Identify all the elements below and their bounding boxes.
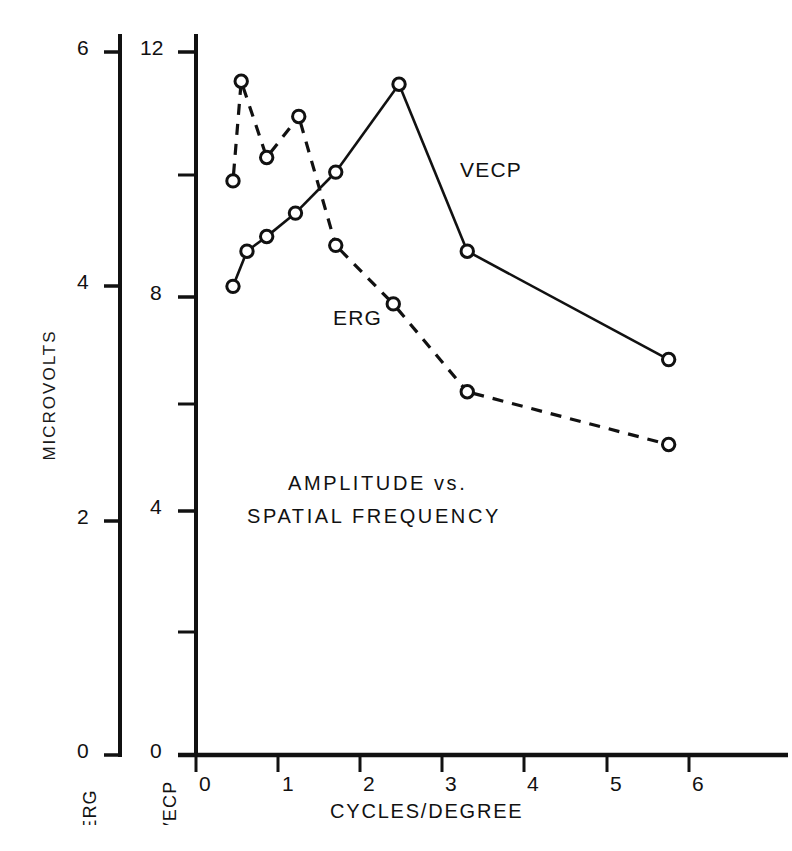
series-segment [252, 240, 262, 247]
data-point-marker [461, 245, 473, 257]
series-segment [401, 90, 465, 245]
data-point-marker [662, 353, 674, 365]
data-point-marker [662, 438, 674, 450]
series-segment [473, 393, 662, 443]
x-axis-title: CYCLES/DEGREE [330, 800, 523, 823]
data-point-marker [260, 230, 272, 242]
x-tick-label-2: 2 [363, 772, 375, 796]
data-point-marker [289, 207, 301, 219]
vecp-tick-label-12: 12 [140, 36, 163, 60]
series-segment [473, 254, 663, 357]
x-tick-label-0: 0 [199, 772, 211, 796]
series-annotation-vecp: VECP [460, 158, 522, 182]
erg-tick-label-2: 2 [77, 505, 89, 529]
series-segment [300, 177, 332, 209]
data-point-marker [260, 151, 272, 163]
series-segment [271, 217, 290, 233]
data-point-marker [227, 175, 239, 187]
vecp-tick-label-8: 8 [150, 281, 162, 305]
data-point-marker [387, 298, 399, 310]
series-segment [243, 87, 265, 151]
x-tick-label-5: 5 [610, 772, 622, 796]
data-point-marker [241, 245, 253, 257]
erg-tick-label-6: 6 [77, 36, 89, 60]
x-tick-label-4: 4 [527, 772, 539, 796]
series-segment [397, 309, 463, 387]
series-segment [234, 87, 241, 174]
series-erg [227, 75, 675, 451]
series-segment [300, 122, 334, 239]
data-point-marker [227, 280, 239, 292]
series-segment [271, 121, 295, 152]
data-point-marker [393, 78, 405, 90]
data-point-marker [293, 110, 305, 122]
series-segment [340, 250, 389, 300]
x-tick-label-1: 1 [282, 772, 294, 796]
erg-tick-label-0: 0 [77, 739, 89, 763]
data-point-marker [461, 386, 473, 398]
data-point-marker [235, 75, 247, 87]
x-tick-label-6: 6 [692, 772, 704, 796]
vecp-tick-label-4: 4 [150, 495, 162, 519]
chart-title-line-1: AMPLITUDE vs. [288, 472, 467, 495]
series-segment [339, 89, 395, 167]
figure-container: MICROVOLTS 6 4 2 0 [0, 0, 792, 851]
series-segment [235, 257, 244, 281]
chart-title-line-2: SPATIAL FREQUENCY [247, 505, 501, 528]
plot-svg [0, 0, 792, 851]
series-annotation-erg: ERG [333, 306, 382, 330]
x-tick-label-3: 3 [445, 772, 457, 796]
page-bottom-margin [0, 825, 792, 851]
erg-tick-label-4: 4 [77, 270, 89, 294]
data-point-marker [330, 166, 342, 178]
data-point-marker [330, 239, 342, 251]
